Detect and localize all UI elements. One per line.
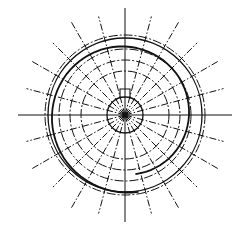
radial-ray [125, 115, 179, 208]
radial-ray [125, 22, 179, 115]
radial-ray [53, 115, 125, 187]
radial-ray [72, 22, 126, 115]
radial-ray [125, 115, 151, 214]
polar-diagram [0, 0, 239, 234]
radial-ray [99, 17, 125, 116]
radial-ray [125, 17, 151, 116]
polar-drawing-canvas [0, 0, 239, 234]
radial-ray [125, 115, 197, 187]
radial-ray [125, 115, 224, 141]
radial-ray [125, 115, 218, 169]
radial-ray [99, 115, 125, 214]
radial-ray [27, 89, 126, 115]
radial-ray [125, 43, 197, 115]
radial-ray [125, 62, 218, 116]
radial-rays [18, 8, 232, 222]
radial-ray [32, 62, 125, 116]
radial-ray [125, 89, 224, 115]
radial-ray [72, 115, 126, 208]
radial-ray [32, 115, 125, 169]
radial-ray [27, 115, 126, 141]
